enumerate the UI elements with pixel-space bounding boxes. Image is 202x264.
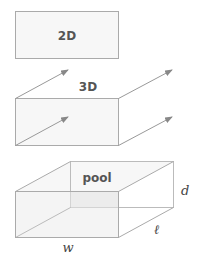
3d-label: 3D xyxy=(79,80,97,94)
width-label: w xyxy=(62,240,73,255)
2d-label: 2D xyxy=(58,29,76,43)
pool-label: pool xyxy=(82,171,111,185)
depth-arrow-icon xyxy=(119,70,173,99)
depth-arrow-icon xyxy=(16,70,69,99)
2d-rectangle: 2D xyxy=(16,12,119,59)
depth-label: d xyxy=(181,183,189,198)
pool-box: pool d ℓ w xyxy=(16,162,190,256)
depth-arrow-icon xyxy=(119,117,173,146)
dimensions-diagram: 2D 3D pool d ℓ w xyxy=(0,0,202,264)
length-label: ℓ xyxy=(154,222,160,237)
3d-extrusion: 3D xyxy=(16,70,173,146)
